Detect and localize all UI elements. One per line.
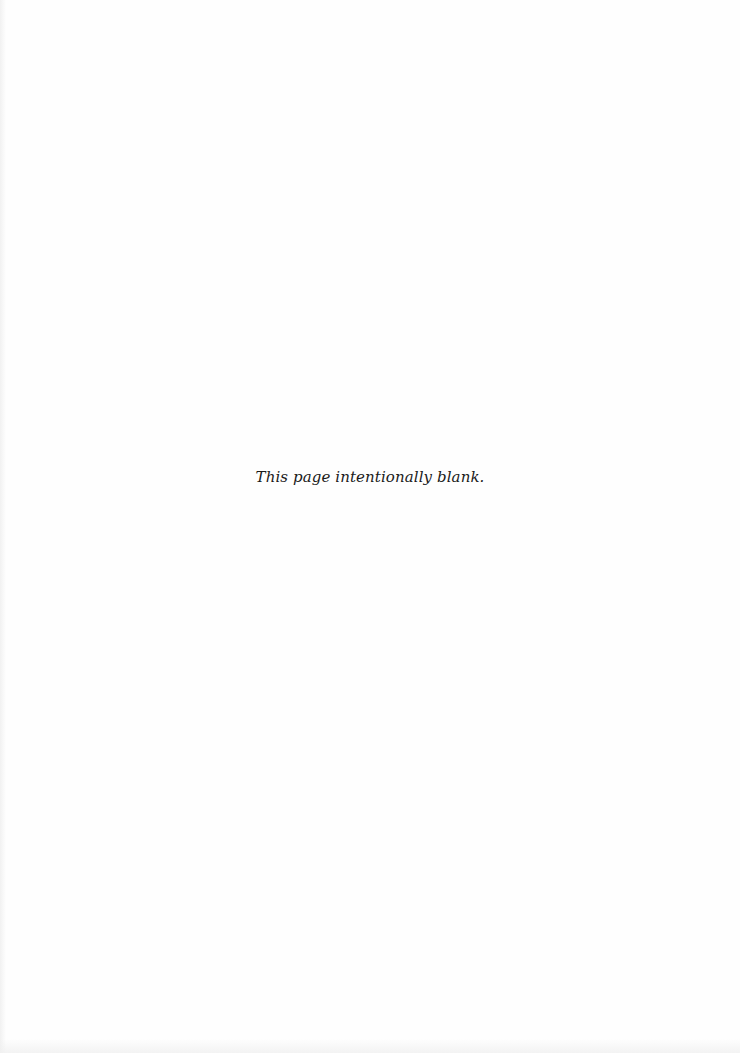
page-bottom-edge bbox=[0, 1039, 740, 1053]
page-left-edge bbox=[0, 0, 6, 1053]
document-page: This page intentionally blank. bbox=[0, 0, 740, 1053]
blank-page-notice: This page intentionally blank. bbox=[0, 468, 740, 486]
